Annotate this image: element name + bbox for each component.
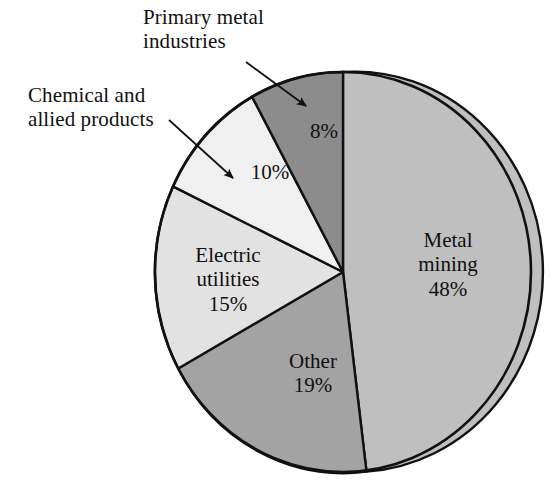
callout-label-chemical-and-allied-products: Chemical and allied products: [28, 84, 154, 132]
slice-label-primary-metal-percent: 8%: [289, 119, 359, 143]
slice-label-metal-mining: Metal mining 48%: [388, 228, 508, 301]
pie-chart: Primary metal industries Chemical and al…: [0, 0, 558, 497]
callout-label-primary-metal-industries: Primary metal industries: [143, 6, 264, 54]
slice-label-chemical-percent: 10%: [230, 160, 310, 184]
slice-label-electric-utilities: Electric utilities 15%: [166, 243, 290, 316]
slice-label-other: Other 19%: [258, 349, 368, 398]
